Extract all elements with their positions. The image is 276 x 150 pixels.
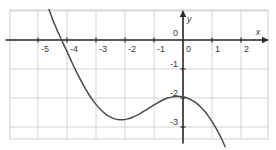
- x-tick-label: 0: [186, 44, 191, 54]
- x-tick-label: 2: [244, 44, 249, 54]
- canvas-background: [0, 0, 276, 150]
- x-tick-label: -4: [70, 44, 78, 54]
- y-tick-label: -3: [170, 117, 178, 127]
- origin-label-upper: 0: [173, 28, 178, 38]
- cartesian-graph: -5-4-3-2-1012 -1-2-3 0 x y: [0, 0, 276, 150]
- y-tick-label: -1: [170, 59, 178, 69]
- x-tick-label: -2: [128, 44, 136, 54]
- x-tick-label: -3: [99, 44, 107, 54]
- y-axis-label: y: [186, 14, 192, 24]
- x-tick-label: -5: [41, 44, 49, 54]
- x-axis-label: x: [255, 27, 261, 37]
- graph-canvas: -5-4-3-2-1012 -1-2-3 0 x y: [0, 0, 276, 150]
- x-tick-label: 1: [215, 44, 220, 54]
- x-tick-label: -1: [157, 44, 165, 54]
